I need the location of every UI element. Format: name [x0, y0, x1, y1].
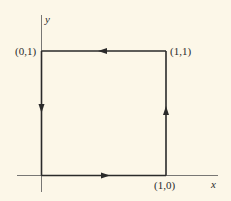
- vertex-label-0-1: (0,1): [15, 46, 36, 57]
- square-path: [42, 51, 167, 176]
- arrow-left-icon: [98, 48, 107, 54]
- x-axis-label: x: [211, 179, 216, 190]
- vertex-label-1-1: (1,1): [170, 46, 191, 57]
- arrow-up-icon: [163, 106, 169, 115]
- diagram-canvas: [0, 0, 231, 201]
- vertex-label-1-0: (1,0): [154, 180, 175, 191]
- arrow-right-icon: [101, 173, 110, 179]
- y-axis-label: y: [45, 14, 50, 25]
- arrow-down-icon: [39, 104, 45, 113]
